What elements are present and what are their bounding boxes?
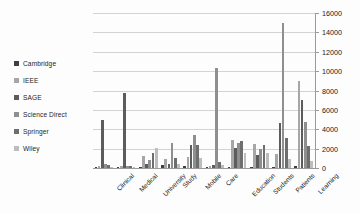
legend-swatch-icon [14, 78, 19, 83]
bar-group [271, 13, 293, 168]
bar-group [160, 13, 182, 168]
x-axis-line [93, 168, 316, 169]
bar[interactable] [288, 159, 291, 168]
legend-swatch-icon [14, 61, 19, 66]
x-tick-label: Mobile [203, 172, 222, 191]
y-tick-label: 10000 [322, 67, 342, 76]
x-tick-label: Clinical [115, 172, 135, 192]
legend-item-label: Science Direct [23, 111, 67, 118]
x-tick-label: Medical [138, 172, 159, 193]
legend-item-label: Wiley [23, 145, 40, 152]
legend-item[interactable]: Wiley [14, 140, 92, 157]
bar[interactable] [310, 161, 313, 168]
plot-area [93, 13, 315, 168]
bar[interactable] [155, 148, 158, 168]
legend-item[interactable]: Science Direct [14, 106, 92, 123]
bar[interactable] [215, 68, 218, 168]
bar-chart: CambridgeIEEESAGEScience DirectSpringerW… [0, 0, 360, 213]
legend-item-label: Springer [23, 128, 49, 135]
x-tick-label: Learning [316, 172, 339, 195]
legend-swatch-icon [14, 95, 19, 100]
legend-item-label: SAGE [23, 94, 42, 101]
y-tick-mark [315, 71, 319, 72]
y-tick-label: 0 [322, 164, 326, 173]
y-tick-mark [315, 129, 319, 130]
y-tick-mark [315, 91, 319, 92]
x-tick-label: Care [224, 172, 239, 187]
legend-swatch-icon [14, 129, 19, 134]
bar-group [93, 13, 115, 168]
y-tick-label: 6000 [322, 105, 338, 114]
bar-group [293, 13, 315, 168]
legend-item-label: IEEE [23, 77, 38, 84]
y-tick-mark [315, 149, 319, 150]
bar-group [137, 13, 159, 168]
bar-group [248, 13, 270, 168]
y-tick-mark [315, 52, 319, 53]
y-tick-mark [315, 13, 319, 14]
x-tick-label: Patients [294, 172, 316, 194]
y-tick-mark [315, 32, 319, 33]
bar[interactable] [101, 120, 104, 168]
y-tick-label: 2000 [322, 144, 338, 153]
legend-swatch-icon [14, 112, 19, 117]
legend-item[interactable]: SAGE [14, 89, 92, 106]
y-tick-mark [315, 168, 319, 169]
y-tick-label: 12000 [322, 47, 342, 56]
y-tick-label: 16000 [322, 9, 342, 18]
legend-item[interactable]: Springer [14, 123, 92, 140]
x-tick-label: Education [251, 172, 277, 198]
bar[interactable] [244, 153, 247, 168]
legend-item[interactable]: Cambridge [14, 55, 92, 72]
bar[interactable] [123, 93, 126, 168]
bar-group [226, 13, 248, 168]
legend-item[interactable]: IEEE [14, 72, 92, 89]
legend-swatch-icon [14, 146, 19, 151]
bar[interactable] [199, 158, 202, 168]
y-tick-label: 4000 [322, 125, 338, 134]
legend-item-label: Cambridge [23, 60, 56, 67]
y-tick-mark [315, 110, 319, 111]
y-tick-label: 8000 [322, 86, 338, 95]
chart-legend: CambridgeIEEESAGEScience DirectSpringerW… [14, 55, 92, 157]
y-tick-label: 14000 [322, 28, 342, 37]
bar-group [204, 13, 226, 168]
bar[interactable] [266, 153, 269, 169]
bar-group [182, 13, 204, 168]
bar-group [115, 13, 137, 168]
